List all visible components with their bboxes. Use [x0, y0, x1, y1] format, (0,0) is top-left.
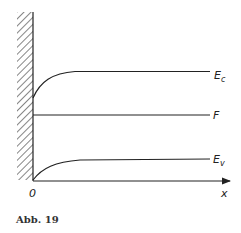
x-axis-label: x	[220, 187, 228, 200]
valence-band-curve	[33, 159, 210, 180]
origin-label: 0	[29, 187, 36, 200]
label-ev: Ev	[213, 153, 225, 168]
band-diagram: Ec F Ev 0 x Abb. 19	[0, 0, 241, 233]
figure-caption: Abb. 19	[15, 214, 59, 225]
label-f: F	[213, 109, 220, 122]
conduction-band-curve	[33, 72, 210, 99]
label-ec: Ec	[214, 69, 226, 84]
surface-wall-hatching	[17, 12, 33, 180]
